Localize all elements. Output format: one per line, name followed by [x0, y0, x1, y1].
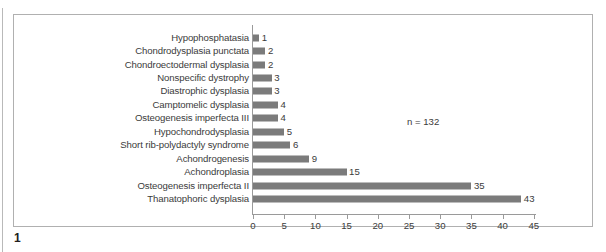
bar-category-label: Camptomelic dysplasia: [152, 100, 249, 110]
bar-category-label: Hypochondrodysplasia: [154, 127, 249, 137]
bar-rect[interactable]: [253, 182, 471, 189]
bar-rect[interactable]: [253, 128, 284, 135]
value-axis-tick-label: 5: [282, 220, 287, 231]
bar-row: Achondrogenesis 9: [14, 152, 594, 165]
value-axis-tick-label: 30: [435, 220, 446, 231]
figure-frame: Hypophosphatasia 1 Chondrodysplasia punc…: [13, 14, 593, 227]
bar-rect[interactable]: [253, 196, 521, 203]
bar-rect[interactable]: [253, 155, 309, 162]
bar-rect[interactable]: [253, 88, 272, 95]
bar-row: Osteogenesis imperfecta II 35: [14, 179, 594, 192]
figure-number: 1: [14, 231, 21, 245]
value-axis-line: [252, 214, 536, 215]
value-axis-tick-mark: [253, 215, 254, 219]
bar-category-label: Nonspecific dystrophy: [157, 73, 249, 83]
bar-row: Hypochondrodysplasia 5: [14, 125, 594, 138]
bar-value-label: 15: [349, 167, 360, 177]
bar-category-label: Hypophosphatasia: [171, 33, 249, 43]
value-axis-tick-label: 0: [250, 220, 255, 231]
value-axis-tick-label: 25: [404, 220, 415, 231]
bar-category-label: Achondrogenesis: [176, 154, 249, 164]
bar-value-label: 43: [524, 194, 535, 204]
bar-value-label: 9: [312, 154, 317, 164]
value-axis-tick-mark: [378, 215, 379, 219]
bar-rect[interactable]: [253, 169, 347, 176]
bar-row: Diastrophic dysplasia 3: [14, 85, 594, 98]
page-gutter-rule: [2, 8, 3, 252]
bar-category-label: Chondrodysplasia punctata: [135, 46, 249, 56]
bar-value-label: 3: [274, 86, 279, 96]
value-axis-tick-mark: [440, 215, 441, 219]
value-axis-tick-label: 45: [528, 220, 539, 231]
bar-chart-plot-area: Hypophosphatasia 1 Chondrodysplasia punc…: [14, 15, 594, 228]
bar-value-label: 2: [268, 46, 273, 56]
sample-size-annotation: n = 132: [407, 116, 439, 127]
value-axis-tick-label: 20: [372, 220, 383, 231]
bar-row: Achondroplasia 15: [14, 166, 594, 179]
bar-row: Chondrodysplasia punctata 2: [14, 44, 594, 57]
bar-rect[interactable]: [253, 75, 272, 82]
value-axis-tick-mark: [284, 215, 285, 219]
value-axis-tick-mark: [409, 215, 410, 219]
bar-category-label: Osteogenesis imperfecta II: [137, 181, 249, 191]
bar-value-label: 6: [293, 140, 298, 150]
bar-value-label: 4: [280, 113, 285, 123]
bar-category-label: Chondroectodermal dysplasia: [125, 60, 249, 70]
value-axis-tick-mark: [471, 215, 472, 219]
bar-row: Nonspecific dystrophy 3: [14, 71, 594, 84]
bar-category-label: Diastrophic dysplasia: [160, 86, 249, 96]
bar-value-label: 4: [280, 100, 285, 110]
bar-value-label: 2: [268, 60, 273, 70]
bar-value-label: 3: [274, 73, 279, 83]
bar-rect[interactable]: [253, 48, 265, 55]
value-axis-tick-mark: [347, 215, 348, 219]
bar-value-label: 1: [262, 33, 267, 43]
bar-row: Osteogenesis imperfecta III 4: [14, 112, 594, 125]
bar-value-label: 35: [474, 181, 485, 191]
bar-row: Camptomelic dysplasia 4: [14, 98, 594, 111]
bar-category-label: Achondroplasia: [184, 167, 249, 177]
bar-category-label: Short rib-polydactyly syndrome: [120, 140, 249, 150]
value-axis-tick-label: 10: [310, 220, 321, 231]
value-axis-tick-label: 35: [466, 220, 477, 231]
bar-category-label: Osteogenesis imperfecta III: [135, 113, 249, 123]
bar-rect[interactable]: [253, 34, 259, 41]
value-axis-tick-mark: [534, 215, 535, 219]
bar-rect[interactable]: [253, 61, 265, 68]
bar-value-label: 5: [287, 127, 292, 137]
bar-rect[interactable]: [253, 115, 278, 122]
bar-row: Chondroectodermal dysplasia 2: [14, 58, 594, 71]
value-axis-tick-mark: [503, 215, 504, 219]
bar-category-label: Thanatophoric dysplasia: [147, 194, 249, 204]
bar-rect[interactable]: [253, 101, 278, 108]
value-axis-tick-label: 15: [341, 220, 352, 231]
bar-row: Short rib-polydactyly syndrome 6: [14, 139, 594, 152]
value-axis-tick-label: 40: [497, 220, 508, 231]
bar-rect[interactable]: [253, 142, 290, 149]
bar-row: Hypophosphatasia 1: [14, 31, 594, 44]
value-axis-tick-mark: [315, 215, 316, 219]
bar-row: Thanatophoric dysplasia 43: [14, 192, 594, 205]
